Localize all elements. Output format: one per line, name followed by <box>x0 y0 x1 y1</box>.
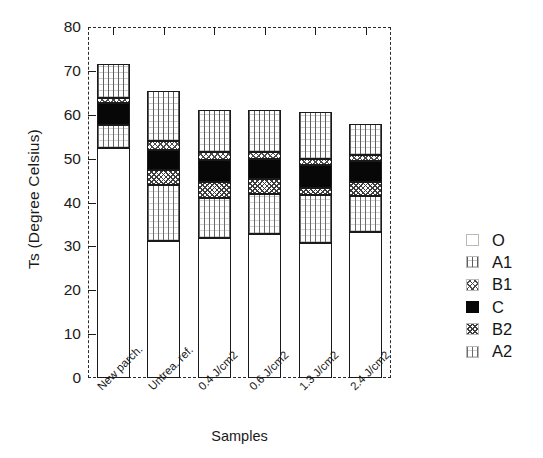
legend-swatch-a2 <box>466 346 479 358</box>
y-tick-mark-right <box>88 203 96 204</box>
y-tick-label: 70 <box>64 62 81 80</box>
stacked-bar[interactable] <box>248 110 281 378</box>
y-axis-title: Ts (Degree Celsius) <box>25 79 47 319</box>
y-tick-mark-right <box>88 71 96 72</box>
bar-segment-a2[interactable] <box>349 196 382 232</box>
bar-segment-a1[interactable] <box>349 124 382 156</box>
x-axis-title: Samples <box>88 428 391 444</box>
legend-label: O <box>492 232 505 249</box>
legend-label: B1 <box>492 276 512 293</box>
y-tick-label: 10 <box>64 325 81 343</box>
stacked-bar[interactable] <box>198 110 231 378</box>
bar-segment-b2[interactable] <box>248 179 281 193</box>
y-tick-label: 30 <box>64 237 81 255</box>
bar-segment-c[interactable] <box>147 150 180 170</box>
bar-segment-a1[interactable] <box>97 64 130 97</box>
stacked-bar[interactable] <box>97 64 130 378</box>
stacked-bar[interactable] <box>349 124 382 378</box>
bar-segment-a2[interactable] <box>147 185 180 241</box>
bar-segment-a2[interactable] <box>198 198 231 237</box>
legend-item[interactable]: B1 <box>466 274 512 296</box>
x-tick-mark-top <box>113 27 114 35</box>
bar-segment-c[interactable] <box>248 159 281 180</box>
bar-segment-a2[interactable] <box>299 195 332 243</box>
bar-segment-c[interactable] <box>299 165 332 187</box>
frame-bottom-border <box>88 377 391 378</box>
legend-label: C <box>492 299 504 316</box>
y-tick-label: 50 <box>64 150 81 168</box>
y-tick-label: 40 <box>64 194 81 212</box>
bar-segment-a1[interactable] <box>147 91 180 141</box>
legend-swatch-b1 <box>466 279 479 291</box>
bar-segment-c[interactable] <box>198 160 231 182</box>
legend: OA1B1CB2A2 <box>466 229 512 363</box>
chart-figure: Ts (Degree Celsius) 01020304050607080 Ne… <box>0 0 543 458</box>
stacked-bar[interactable] <box>299 112 332 378</box>
bar-segment-b2[interactable] <box>147 170 180 185</box>
bar-segment-o[interactable] <box>97 148 130 378</box>
plot-area: 01020304050607080 <box>88 27 391 378</box>
x-tick-mark-top <box>265 27 266 35</box>
y-tick-mark-right <box>88 159 96 160</box>
bar-segment-b1[interactable] <box>299 159 332 166</box>
frame-right-border <box>390 27 391 378</box>
bar-segment-a2[interactable] <box>248 194 281 234</box>
legend-label: B2 <box>492 321 512 338</box>
bar-segment-c[interactable] <box>97 103 130 125</box>
y-tick-mark-right <box>88 334 96 335</box>
legend-swatch-a1 <box>466 256 479 268</box>
y-tick-label: 80 <box>64 18 81 36</box>
y-tick-mark-right <box>88 246 96 247</box>
bar-segment-b1[interactable] <box>97 98 130 103</box>
legend-label: A1 <box>492 254 512 271</box>
legend-swatch-c <box>466 301 479 313</box>
y-tick-mark-right <box>88 115 96 116</box>
legend-label: A2 <box>492 343 512 360</box>
bar-segment-b2[interactable] <box>198 182 231 198</box>
frame-top-border <box>88 27 391 28</box>
x-tick-mark-top <box>315 27 316 35</box>
bar-segment-b2[interactable] <box>349 182 382 196</box>
bar-segment-a1[interactable] <box>198 110 231 151</box>
legend-item[interactable]: B2 <box>466 318 512 340</box>
bar-segment-b1[interactable] <box>198 152 231 161</box>
bar-segment-a1[interactable] <box>299 112 332 159</box>
bar-segment-b2[interactable] <box>299 188 332 195</box>
legend-item[interactable]: O <box>466 229 512 251</box>
stacked-bar[interactable] <box>147 91 180 378</box>
bar-segment-a2[interactable] <box>97 125 130 148</box>
y-tick-label: 0 <box>72 369 81 387</box>
bar-segment-b1[interactable] <box>147 141 180 150</box>
legend-item[interactable]: A1 <box>466 251 512 273</box>
legend-swatch-b2 <box>466 323 479 335</box>
legend-item[interactable]: A2 <box>466 340 512 362</box>
x-tick-mark-top <box>164 27 165 35</box>
bar-segment-a1[interactable] <box>248 110 281 151</box>
legend-item[interactable]: C <box>466 296 512 318</box>
bar-segment-b1[interactable] <box>248 152 281 159</box>
y-tick-mark-right <box>88 290 96 291</box>
x-tick-mark-top <box>366 27 367 35</box>
bar-segment-c[interactable] <box>349 161 382 182</box>
y-tick-label: 20 <box>64 281 81 299</box>
x-tick-mark-top <box>214 27 215 35</box>
bar-segment-b1[interactable] <box>349 155 382 161</box>
legend-swatch-o <box>466 234 479 246</box>
y-tick-label: 60 <box>64 106 81 124</box>
